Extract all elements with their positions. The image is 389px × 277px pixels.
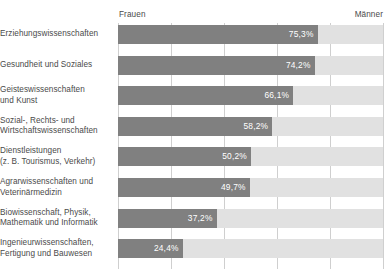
category-label-line: Dienstleistungen xyxy=(0,146,108,157)
category-label: Gesundheit und Soziales xyxy=(0,60,108,71)
bar-row[interactable]: 50,2% xyxy=(118,147,383,166)
plot-area: 75,3%74,2%66,1%58,2%50,2%49,7%37,2%24,4% xyxy=(118,23,383,269)
bar-segment-frauen[interactable]: 37,2% xyxy=(118,209,217,228)
category-label-line: Veterinärmedizin xyxy=(0,188,108,199)
bar-rows: 75,3%74,2%66,1%58,2%50,2%49,7%37,2%24,4% xyxy=(118,23,383,269)
category-label-line: Sozial-, Rechts- und xyxy=(0,116,108,127)
legend: Frauen Männer xyxy=(118,9,383,24)
category-label-line: Biowissenschaft, Physik, xyxy=(0,208,108,219)
category-label: Geisteswissenschaftenund Kunst xyxy=(0,85,108,106)
bar-row[interactable]: 58,2% xyxy=(118,117,383,136)
legend-label-frauen: Frauen xyxy=(119,9,146,20)
legend-label-maenner: Männer xyxy=(355,9,383,20)
bar-segment-frauen[interactable]: 49,7% xyxy=(118,178,250,197)
category-label: Erziehungswissenschaften xyxy=(0,29,108,40)
category-label-line: Agrarwissenschaften und xyxy=(0,177,108,188)
bar-row[interactable]: 74,2% xyxy=(118,56,383,75)
category-label-line: Fertigung und Bauwesen xyxy=(0,249,108,260)
bar-segment-frauen[interactable]: 24,4% xyxy=(118,239,183,258)
bar-value-label: 75,3% xyxy=(289,25,314,44)
bar-value-label: 49,7% xyxy=(221,178,246,197)
bar-value-label: 37,2% xyxy=(188,209,213,228)
category-label: Dienstleistungen(z. B. Tourismus, Verkeh… xyxy=(0,146,108,167)
category-label-line: Ingenieurwissenschaften, xyxy=(0,238,108,249)
category-label-line: Erziehungswissenschaften xyxy=(0,29,108,40)
bar-value-label: 24,4% xyxy=(154,239,179,258)
category-label-line: Geisteswissenschaften xyxy=(0,85,108,96)
bar-row[interactable]: 37,2% xyxy=(118,209,383,228)
bar-row[interactable]: 66,1% xyxy=(118,86,383,105)
bar-row[interactable]: 75,3% xyxy=(118,25,383,44)
category-label: Sozial-, Rechts- undWirtschaftswissensch… xyxy=(0,116,108,137)
category-label-column: ErziehungswissenschaftenGesundheit und S… xyxy=(0,23,113,269)
category-label-line: (z. B. Tourismus, Verkehr) xyxy=(0,157,108,168)
category-label-line: Wirtschaftswissenschaften xyxy=(0,126,108,137)
bar-segment-frauen[interactable]: 58,2% xyxy=(118,117,272,136)
bar-value-label: 74,2% xyxy=(286,56,311,75)
bar-segment-frauen[interactable]: 66,1% xyxy=(118,86,293,105)
bar-value-label: 58,2% xyxy=(243,117,268,136)
category-label-line: Mathematik und Informatik xyxy=(0,218,108,229)
category-label: Ingenieurwissenschaften,Fertigung und Ba… xyxy=(0,238,108,259)
category-label-line: Gesundheit und Soziales xyxy=(0,60,108,71)
gridline xyxy=(383,23,384,269)
bar-value-label: 50,2% xyxy=(222,147,247,166)
bar-chart: Frauen Männer ErziehungswissenschaftenGe… xyxy=(0,0,389,277)
category-label: Agrarwissenschaften undVeterinärmedizin xyxy=(0,177,108,198)
bar-segment-frauen[interactable]: 50,2% xyxy=(118,147,251,166)
bar-row[interactable]: 49,7% xyxy=(118,178,383,197)
category-label-line: und Kunst xyxy=(0,96,108,107)
bar-value-label: 66,1% xyxy=(264,86,289,105)
bar-row[interactable]: 24,4% xyxy=(118,239,383,258)
bar-segment-frauen[interactable]: 74,2% xyxy=(118,56,315,75)
category-label: Biowissenschaft, Physik,Mathematik und I… xyxy=(0,208,108,229)
bar-segment-frauen[interactable]: 75,3% xyxy=(118,25,318,44)
